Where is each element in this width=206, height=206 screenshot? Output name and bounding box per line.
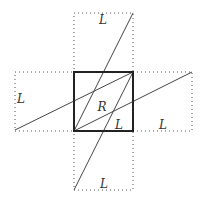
label-inner-l: L [115,119,123,131]
label-center-r: R [97,101,106,113]
label-right-l: L [159,119,167,131]
label-top-l: L [99,14,107,26]
label-left-l: L [17,93,25,105]
label-bottom-l: L [100,178,108,190]
